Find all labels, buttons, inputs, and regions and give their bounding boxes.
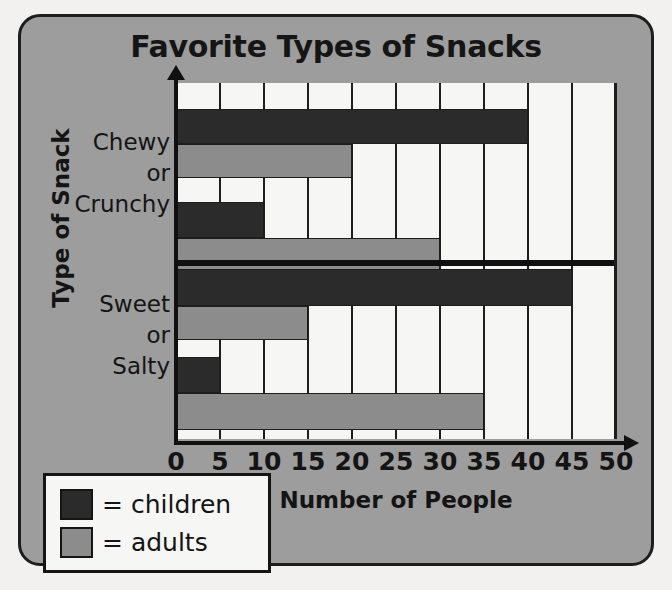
x-tick-label: 5	[211, 447, 228, 476]
x-tick-label: 15	[291, 447, 326, 476]
legend-swatch-children-icon	[60, 489, 93, 520]
x-tick-label: 20	[335, 447, 370, 476]
x-axis-title: Number of People	[231, 487, 561, 513]
bar-adults-35	[176, 393, 484, 430]
x-tick-label: 35	[467, 447, 502, 476]
y-axis-arrow-icon	[167, 65, 185, 80]
legend-label-children: = children	[102, 490, 231, 519]
y-category-line: Sweet	[20, 289, 170, 320]
legend-item-adults: = adults	[60, 523, 258, 561]
bar-adults-20	[176, 144, 352, 178]
y-category-line: Chewy	[20, 127, 170, 158]
chart-title: Favorite Types of Snacks	[21, 29, 651, 64]
x-tick-label: 30	[423, 447, 458, 476]
chart-panel: Favorite Types of Snacks Type of Snack N…	[18, 14, 654, 566]
x-tick-label: 0	[167, 447, 184, 476]
y-category-label: ChewyorCrunchy	[20, 127, 170, 220]
bar-children-40	[176, 109, 528, 145]
bar-children-10	[176, 202, 264, 238]
y-category-line: or	[20, 320, 170, 351]
x-tick-label: 40	[511, 447, 546, 476]
gridline	[615, 83, 617, 439]
bar-children-45	[176, 269, 572, 306]
legend-item-children: = children	[60, 485, 258, 523]
group-divider	[176, 260, 614, 266]
x-tick-label: 10	[247, 447, 282, 476]
y-category-label: SweetorSalty	[20, 289, 170, 382]
y-category-line: or	[20, 158, 170, 189]
bar-adults-15	[176, 306, 308, 340]
bar-children-5	[176, 357, 220, 393]
legend-label-adults: = adults	[102, 528, 208, 557]
x-tick-label: 45	[555, 447, 590, 476]
plot-area	[176, 83, 616, 439]
y-category-line: Crunchy	[20, 189, 170, 220]
x-tick-label: 25	[379, 447, 414, 476]
y-axis-line	[174, 77, 178, 445]
chart-legend: = children = adults	[43, 473, 271, 573]
legend-swatch-adults-icon	[60, 527, 93, 558]
x-tick-label: 50	[599, 447, 634, 476]
y-category-line: Salty	[20, 351, 170, 382]
x-axis-line	[174, 441, 626, 445]
